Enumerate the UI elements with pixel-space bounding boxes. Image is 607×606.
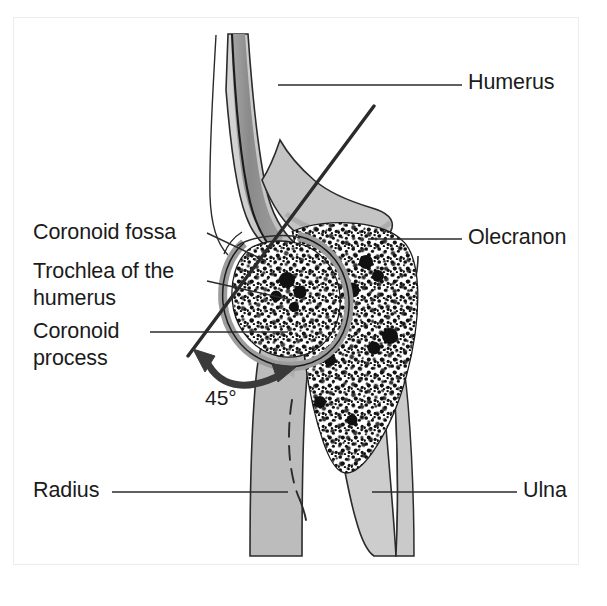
trochlea-group [223,236,350,367]
label-ulna: Ulna [523,477,567,504]
humerus-outer-outline-left [210,35,228,255]
label-humerus: Humerus [468,69,555,96]
label-olecranon: Olecranon [468,224,566,251]
label-coronoid-process: Coronoid process [33,318,119,372]
label-flexion-angle: 45° [205,386,237,410]
label-radius: Radius [33,477,99,504]
label-trochlea-of-the-humerus: Trochlea of the humerus [33,258,174,312]
anatomy-figure-root: Coronoid fossa Trochlea of the humerus C… [0,0,607,606]
label-coronoid-fossa: Coronoid fossa [33,219,176,246]
